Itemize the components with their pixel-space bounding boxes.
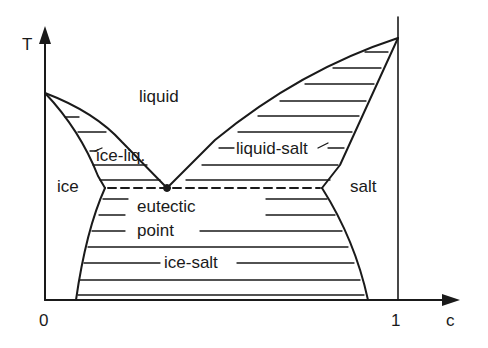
region-label-liquid: liquid	[139, 87, 179, 106]
y-axis-arrow-icon	[39, 26, 51, 44]
region-label-ice-liq: ice-liq.	[96, 146, 145, 165]
ice-solvus-curve	[76, 188, 105, 300]
temperature-axis	[39, 26, 51, 300]
x-tick-1: 1	[391, 311, 400, 330]
x-axis-arrow-icon	[442, 294, 460, 306]
region-label-ice-salt: ice-salt	[164, 253, 218, 272]
region-label-eutectic: eutectic	[137, 197, 196, 216]
region-label-liquid-salt: liquid-salt	[236, 139, 308, 158]
eutectic-point-dot	[164, 185, 171, 192]
ice-salt-hatching	[78, 199, 364, 295]
x-axis-label: c	[446, 311, 455, 330]
y-axis-label: T	[22, 35, 32, 54]
x-tick-0: 0	[39, 311, 48, 330]
liquid-salt-hatching	[186, 52, 388, 180]
region-label-ice: ice	[57, 177, 79, 196]
region-label-salt: salt	[350, 177, 377, 196]
ice-liquidus-curve	[45, 93, 167, 188]
region-label-point: point	[137, 221, 174, 240]
liquid-salt-leader	[318, 143, 328, 148]
phase-diagram: T c 0 1 liquid ice-liq. liquid-salt ice …	[0, 0, 488, 348]
salt-solvus-curve	[322, 188, 368, 300]
